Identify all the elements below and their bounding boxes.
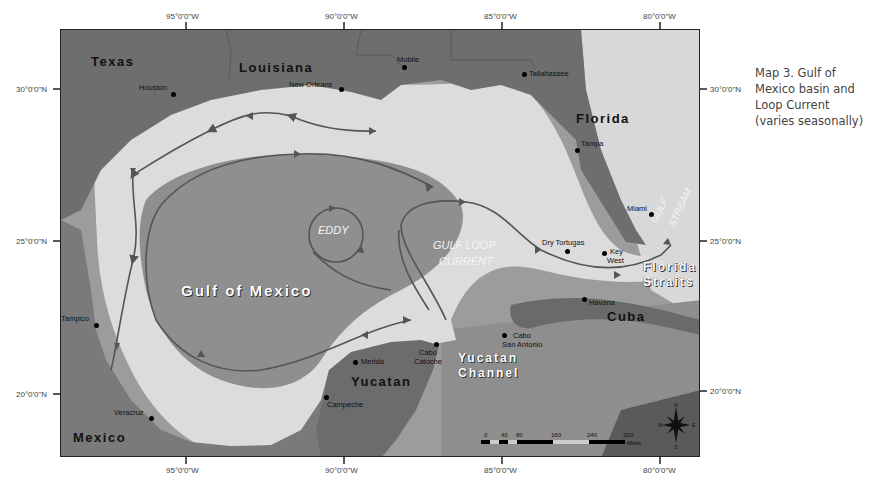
city-havana[interactable]: Havana: [589, 298, 615, 307]
city-key-west-1[interactable]: Key: [610, 247, 623, 256]
label-florida: Florida: [576, 111, 630, 126]
label-yucatan: Yucatan: [351, 374, 411, 389]
city-campeche[interactable]: Campeche: [327, 400, 363, 409]
scale-tick-40: 40: [501, 432, 508, 438]
label-louisiana: Louisiana: [239, 60, 313, 75]
label-eddy: EDDY: [318, 224, 349, 236]
city-dot-veracruz: [149, 416, 154, 421]
scale-bar: [481, 440, 625, 444]
city-key-west-2[interactable]: West: [607, 256, 624, 265]
city-dot-tallahassee: [522, 72, 527, 77]
city-dot-merida: [353, 360, 358, 365]
label-florida-straits-2: Straits: [643, 275, 694, 289]
compass-s: S: [674, 444, 677, 450]
city-dot-dry-tortugas: [565, 249, 570, 254]
map-caption: Map 3. Gulf of Mexico basin and Loop Cur…: [755, 65, 865, 129]
gulf-map[interactable]: Texas Louisiana Florida Mexico Yucatan C…: [60, 29, 700, 457]
city-tampa[interactable]: Tampa: [581, 139, 604, 148]
label-texas: Texas: [91, 54, 134, 69]
label-gulf-loop: GULF LOOP: [433, 239, 496, 251]
label-florida-straits-1: Florida: [643, 260, 697, 274]
city-dot-tampa: [575, 148, 580, 153]
scale-tick-0: 0: [484, 432, 487, 438]
label-gulf-of-mexico: Gulf of Mexico: [181, 282, 312, 299]
label-current: CURRENT: [439, 255, 493, 267]
city-dot-cabo-san-antonio: [502, 333, 507, 338]
city-cabo-san-antonio-2[interactable]: San Antonio: [502, 340, 542, 349]
compass-w: W: [658, 422, 663, 428]
city-dot-new-orleans: [339, 87, 344, 92]
compass-e: E: [692, 422, 695, 428]
label-cuba: Cuba: [607, 309, 646, 324]
city-new-orleans[interactable]: New Orleans: [289, 80, 332, 89]
map-graphic: [61, 30, 700, 457]
scale-tick-240: 240: [587, 432, 597, 438]
scale-tick-80: 80: [516, 432, 523, 438]
city-cabo-san-antonio-1[interactable]: Cabo: [513, 331, 531, 340]
city-cabo-catoche-1[interactable]: Cabo: [419, 348, 437, 357]
city-dot-miami: [649, 212, 654, 217]
city-dot-houston: [171, 92, 176, 97]
label-yucatan-channel-1: Yucatan: [458, 351, 518, 365]
city-dry-tortugas[interactable]: Dry Tortugas: [542, 238, 584, 247]
city-dot-mobile: [402, 65, 407, 70]
scale-unit: Miles: [627, 440, 641, 446]
scale-tick-320: 320: [623, 432, 633, 438]
city-miami[interactable]: Miami: [627, 204, 647, 213]
city-dot-cabo-catoche: [434, 342, 439, 347]
city-houston[interactable]: Houston: [139, 83, 167, 92]
city-cabo-catoche-2[interactable]: Catoche: [414, 357, 442, 366]
city-dot-havana: [582, 297, 587, 302]
city-mobile[interactable]: Mobile: [397, 55, 419, 64]
compass-n: N: [674, 402, 678, 408]
city-merida[interactable]: Merida: [361, 357, 384, 366]
label-mexico: Mexico: [73, 430, 126, 445]
scale-tick-160: 160: [551, 432, 561, 438]
label-yucatan-channel-2: Channel: [458, 366, 519, 380]
city-dot-tampico: [94, 323, 99, 328]
city-veracruz[interactable]: Veracruz: [114, 408, 144, 417]
city-tampico[interactable]: Tampico: [61, 314, 89, 323]
city-tallahassee[interactable]: Tallahassee: [529, 69, 569, 78]
